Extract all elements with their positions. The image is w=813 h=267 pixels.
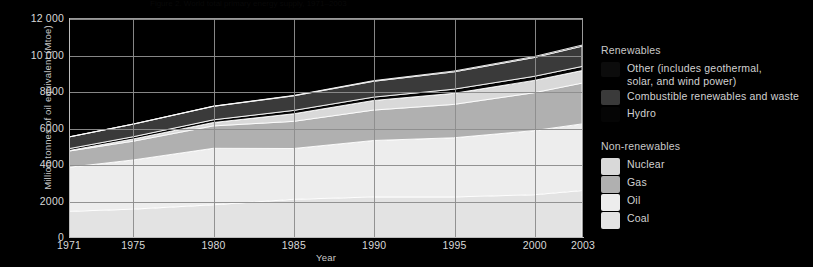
x-tick-label: 1995	[442, 239, 466, 251]
legend-item-label: Hydro	[627, 107, 656, 120]
gridline-vertical	[214, 19, 215, 237]
x-tick-label: 1985	[282, 239, 306, 251]
plot-area	[69, 18, 583, 237]
y-tick-label: 10 000	[31, 49, 64, 61]
gridline-vertical	[535, 19, 536, 237]
plot-frame	[69, 18, 583, 237]
y-tick-label: 12 000	[31, 12, 64, 24]
gridline-vertical	[374, 19, 375, 237]
legend-swatch	[601, 62, 620, 77]
y-axis-line	[69, 18, 70, 238]
x-tick-label: 1980	[201, 239, 225, 251]
legend-swatch	[601, 158, 620, 175]
legend-item-label: Coal	[627, 212, 649, 225]
gridline-vertical	[133, 19, 134, 237]
legend-item[interactable]: Combustible renewables and waste	[601, 90, 813, 105]
gridline-vertical	[455, 19, 456, 237]
legend-swatch	[601, 212, 620, 229]
y-tick-label: 2000	[40, 195, 64, 207]
legend-group-title: Renewables	[601, 44, 813, 56]
gridline-horizontal	[69, 92, 582, 93]
legend-item[interactable]: Nuclear	[601, 158, 813, 175]
y-tick-label: 8000	[40, 85, 64, 97]
legend-swatch	[601, 90, 620, 105]
legend-swatch	[601, 176, 620, 193]
legend-item-label: Combustible renewables and waste	[627, 90, 799, 103]
legend-item[interactable]: Oil	[601, 194, 813, 211]
legend-item[interactable]: Gas	[601, 176, 813, 193]
y-tick-label: 6000	[40, 122, 64, 134]
figure-caption: Figure 2. World total primary energy sup…	[150, 0, 570, 10]
legend-item[interactable]: Hydro	[601, 107, 813, 122]
legend-item-label: Other (includes geothermal,solar, and wi…	[627, 62, 762, 88]
x-axis-line	[69, 237, 584, 238]
gridline-horizontal	[69, 202, 582, 203]
legend-item-label-line2: solar, and wind power)	[627, 75, 762, 88]
gridline-horizontal	[69, 165, 582, 166]
x-tick-label: 2000	[523, 239, 547, 251]
legend-swatch	[601, 107, 620, 122]
legend-item-label: Nuclear	[627, 158, 665, 171]
energy-supply-area-chart: Figure 2. World total primary energy sup…	[0, 0, 813, 267]
x-tick-label: 1975	[121, 239, 145, 251]
legend-item-label: Gas	[627, 176, 647, 189]
x-tick-label: 1971	[57, 239, 81, 251]
legend-group-title: Non-renewables	[601, 140, 813, 152]
legend-item[interactable]: Coal	[601, 212, 813, 229]
y-tick-label: 4000	[40, 158, 64, 170]
gridline-horizontal	[69, 129, 582, 130]
gridline-horizontal	[69, 56, 582, 57]
x-tick-label: 1990	[362, 239, 386, 251]
legend-swatch	[601, 194, 620, 211]
legend-item[interactable]: Other (includes geothermal,solar, and wi…	[601, 62, 813, 88]
y-axis-tick-labels: 0200040006000800010 00012 000	[0, 18, 64, 237]
x-tick-label: 2003	[571, 239, 595, 251]
legend-group-non-renewables: Non-renewablesNuclearGasOilCoal	[601, 140, 813, 229]
legend-group-renewables: RenewablesOther (includes geothermal,sol…	[601, 44, 813, 122]
gridline-vertical	[294, 19, 295, 237]
x-axis-title: Year	[69, 252, 583, 263]
chart-legend: RenewablesOther (includes geothermal,sol…	[601, 44, 813, 240]
gridline-horizontal	[69, 19, 582, 20]
legend-item-label: Oil	[627, 194, 640, 207]
